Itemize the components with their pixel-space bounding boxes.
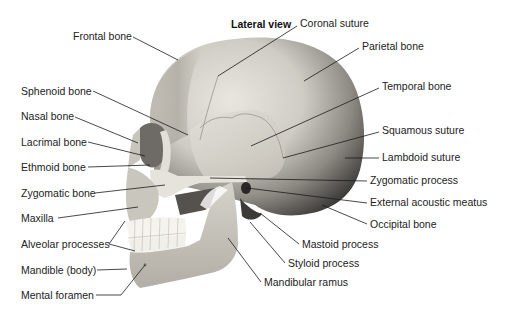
label-squamous-suture: Squamous suture <box>382 124 464 136</box>
label-zygomatic-process: Zygomatic process <box>370 174 458 186</box>
label-nasal-bone: Nasal bone <box>21 110 74 122</box>
label-alveolar-processes: Alveolar processes <box>21 238 110 250</box>
label-mandible-body: Mandible (body) <box>21 264 96 276</box>
label-styloid-process: Styloid process <box>288 257 359 269</box>
label-maxilla: Maxilla <box>21 212 54 224</box>
label-mental-foramen: Mental foramen <box>21 289 94 301</box>
label-frontal-bone: Frontal bone <box>73 30 132 42</box>
label-occipital-bone: Occipital bone <box>370 218 437 230</box>
label-sphenoid-bone: Sphenoid bone <box>21 85 92 97</box>
label-zygomatic-bone: Zygomatic bone <box>21 187 96 199</box>
label-temporal-bone: Temporal bone <box>382 80 451 92</box>
diagram-title: Lateral view <box>231 18 291 30</box>
teeth <box>126 217 186 252</box>
label-lacrimal-bone: Lacrimal bone <box>21 136 87 148</box>
label-mastoid-process: Mastoid process <box>302 238 378 250</box>
label-coronal-suture: Coronal suture <box>300 17 369 29</box>
label-lambdoid-suture: Lambdoid suture <box>382 151 460 163</box>
label-parietal-bone: Parietal bone <box>362 40 424 52</box>
label-ethmoid-bone: Ethmoid bone <box>21 161 86 173</box>
skull-diagram: Lateral view Frontal bone Sphenoid bone … <box>0 0 508 319</box>
label-external-acoustic-meatus: External acoustic meatus <box>370 196 487 208</box>
label-mandibular-ramus: Mandibular ramus <box>264 276 348 288</box>
